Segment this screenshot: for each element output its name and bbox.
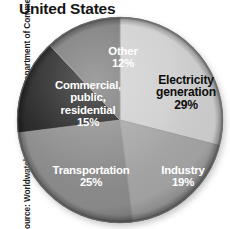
pie-chart-figure: Source: Worldwatch Institute and U.S. De… <box>0 0 230 229</box>
slice-label-electricity-generation: Electricity generation 29% <box>134 74 230 111</box>
slice-label-text-line3: residential <box>61 104 116 116</box>
slice-label-other: Other 12% <box>90 45 156 70</box>
slice-label-commercial-public-residential: Commercial, public, residential 15% <box>38 79 138 129</box>
pie-chart: Electricity generation 29% Industry 19% … <box>16 16 227 227</box>
slice-value-electricity-generation: 29% <box>134 99 230 111</box>
slice-value-commercial-public-residential: 15% <box>38 116 138 128</box>
slice-value-transportation: 25% <box>40 176 142 188</box>
slice-value-other: 12% <box>90 57 156 69</box>
slice-label-transportation: Transportation 25% <box>40 164 142 189</box>
slice-label-text-line1: Transportation <box>53 164 130 176</box>
slice-label-text-line1: Commercial, <box>55 79 121 91</box>
slice-label-industry: Industry 19% <box>144 164 222 189</box>
slice-label-text-line2: public, <box>70 91 105 103</box>
slice-label-text-line1: Industry <box>161 164 204 176</box>
slice-value-industry: 19% <box>144 176 222 188</box>
slice-label-text-line1: Other <box>108 45 137 57</box>
